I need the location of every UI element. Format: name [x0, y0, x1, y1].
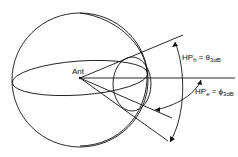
ant-label: Ant [72, 67, 85, 76]
beam-cross-section [113, 57, 151, 111]
arrow-icon [197, 80, 202, 85]
beam-edge-upper [80, 35, 183, 78]
arrow-icon [172, 42, 178, 47]
beam-edge-mid [80, 78, 172, 118]
hp-e-label: HPe = ϕ3dB [195, 87, 234, 97]
antenna-beam-diagram: Ant HPh = θ3dB HPe = ϕ3dB [0, 0, 238, 157]
hp-h-label: HPh = θ3dB [182, 53, 221, 63]
antenna-point [79, 77, 81, 79]
hp-h-arc [170, 42, 183, 142]
sphere-outline [12, 13, 148, 147]
